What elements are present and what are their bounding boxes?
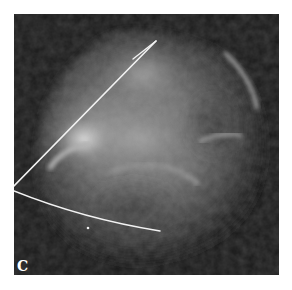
image-panel: C: [14, 14, 279, 275]
figure-page: C: [0, 0, 292, 290]
nebula-image: [14, 14, 279, 275]
panel-label: C: [17, 259, 28, 273]
